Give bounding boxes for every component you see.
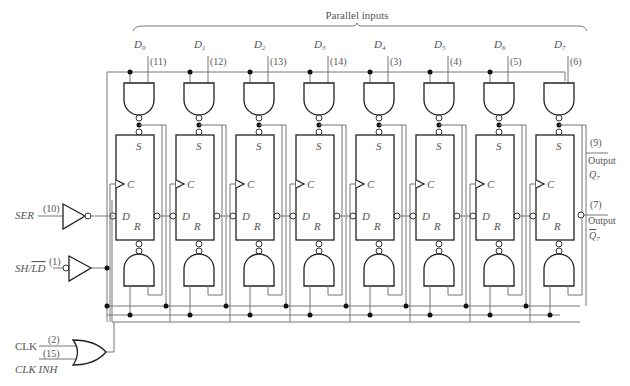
pin-number: (12) bbox=[210, 56, 227, 68]
stage-7: D7(6)SCDR bbox=[524, 38, 587, 322]
data-pin-label: D bbox=[361, 210, 370, 222]
set-pin-label: S bbox=[196, 140, 202, 152]
data-pin-label: D bbox=[541, 210, 550, 222]
reset-and-gate bbox=[484, 254, 514, 286]
stage-6: D6(5)SCDR bbox=[464, 38, 531, 322]
reset-pin-label: R bbox=[553, 220, 561, 232]
stage-3: D3(14)SCDR bbox=[284, 38, 351, 322]
stage-2: D2(13)SCDR bbox=[224, 38, 291, 322]
set-pin-label: S bbox=[376, 140, 382, 152]
set-pin-label: S bbox=[436, 140, 442, 152]
set-nand-gate bbox=[244, 83, 274, 115]
parallel-input-label: D2 bbox=[253, 38, 266, 52]
data-pin-label: D bbox=[181, 210, 190, 222]
stage-5: D5(4)SCDR bbox=[404, 38, 471, 322]
parallel-input-label: D1 bbox=[193, 38, 205, 52]
parallel-input-label: D0 bbox=[133, 38, 146, 52]
clock-pin-label: C bbox=[487, 178, 495, 190]
q7-pin: (9) bbox=[590, 137, 602, 149]
clock-pin-label: C bbox=[367, 178, 375, 190]
data-pin-label: D bbox=[301, 210, 310, 222]
clock-pin-label: C bbox=[187, 178, 195, 190]
ser-label: SER bbox=[15, 209, 34, 221]
clk-inh-label: CLK INH bbox=[15, 363, 59, 375]
pin-number: (4) bbox=[450, 56, 462, 68]
stage-1: D1(12)SCDR bbox=[164, 38, 231, 322]
reset-pin-label: R bbox=[433, 220, 441, 232]
ser-buffer-gate bbox=[63, 204, 85, 229]
parallel-inputs-brace bbox=[133, 23, 587, 31]
q7bar-signal: Q7 bbox=[589, 230, 600, 243]
reset-and-gate bbox=[244, 254, 274, 286]
clock-pin-label: C bbox=[307, 178, 315, 190]
clk-pin: (2) bbox=[48, 334, 60, 346]
set-pin-label: S bbox=[256, 140, 262, 152]
set-pin-label: S bbox=[316, 140, 322, 152]
set-nand-gate bbox=[364, 83, 394, 115]
reset-and-gate bbox=[184, 254, 214, 286]
reset-pin-label: R bbox=[253, 220, 261, 232]
set-pin-label: S bbox=[496, 140, 502, 152]
shld-label: SH/LD bbox=[15, 262, 46, 274]
q7bar-output-label: Output bbox=[588, 215, 616, 226]
clock-pin-label: C bbox=[127, 178, 135, 190]
clock-pin-label: C bbox=[427, 178, 435, 190]
reset-pin-label: R bbox=[493, 220, 501, 232]
clock-pin-label: C bbox=[247, 178, 255, 190]
pin-number: (6) bbox=[570, 56, 582, 68]
pin-number: (13) bbox=[270, 56, 287, 68]
data-pin-label: D bbox=[121, 210, 130, 222]
parallel-input-label: D4 bbox=[373, 38, 386, 52]
parallel-inputs-label: Parallel inputs bbox=[325, 9, 388, 21]
reset-and-gate bbox=[304, 254, 334, 286]
set-nand-gate bbox=[184, 83, 214, 115]
reset-pin-label: R bbox=[373, 220, 381, 232]
reset-and-gate bbox=[124, 254, 154, 286]
set-nand-gate bbox=[304, 83, 334, 115]
reset-pin-label: R bbox=[313, 220, 321, 232]
clk-or-gate bbox=[73, 340, 106, 365]
set-nand-gate bbox=[544, 83, 574, 115]
clk-inh-pin: (15) bbox=[43, 348, 60, 360]
pin-number: (11) bbox=[150, 56, 166, 68]
clk-label: CLK bbox=[15, 340, 37, 352]
q7-signal: Q7 bbox=[589, 169, 600, 182]
set-nand-gate bbox=[124, 83, 154, 115]
data-pin-label: D bbox=[421, 210, 430, 222]
data-pin-label: D bbox=[481, 210, 490, 222]
set-pin-label: S bbox=[556, 140, 562, 152]
shld-inverter-gate bbox=[69, 256, 91, 281]
parallel-input-label: D6 bbox=[493, 38, 506, 52]
reset-and-gate bbox=[364, 254, 394, 286]
set-nand-gate bbox=[484, 83, 514, 115]
shld-pin: (1) bbox=[49, 256, 61, 268]
clock-pin-label: C bbox=[547, 178, 555, 190]
reset-pin-label: R bbox=[193, 220, 201, 232]
reset-and-gate bbox=[544, 254, 574, 286]
q7-output-label: Output bbox=[588, 155, 616, 166]
q7bar-pin: (7) bbox=[590, 199, 602, 211]
pin-number: (14) bbox=[330, 56, 347, 68]
set-pin-label: S bbox=[136, 140, 142, 152]
data-pin-label: D bbox=[241, 210, 250, 222]
reset-and-gate bbox=[424, 254, 454, 286]
ser-pin: (10) bbox=[43, 203, 60, 215]
pin-number: (3) bbox=[390, 56, 402, 68]
stage-0: D0(11)SCDR bbox=[105, 38, 171, 322]
stage-4: D4(3)SCDR bbox=[344, 38, 411, 322]
parallel-input-label: D7 bbox=[553, 38, 566, 52]
set-nand-gate bbox=[424, 83, 454, 115]
reset-pin-label: R bbox=[133, 220, 141, 232]
schematic-canvas: Parallel inputs D0(11)SCDRD1(12)SCDRD2(1… bbox=[0, 0, 630, 386]
pin-number: (5) bbox=[510, 56, 522, 68]
parallel-input-label: D5 bbox=[433, 38, 446, 52]
parallel-input-label: D3 bbox=[313, 38, 326, 52]
